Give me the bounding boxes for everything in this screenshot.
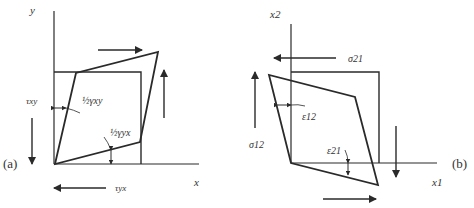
shear-strain-diagram: y x (a) τxy τyx ½γxy ½γyx x2 x1 (b) σ21 …	[0, 0, 474, 208]
axis-y-label: y	[29, 4, 35, 16]
panel-a	[32, 11, 199, 188]
deformed-parallelogram	[269, 75, 378, 185]
axis-x1-label: x1	[431, 176, 442, 188]
epsilon-12-leader	[291, 105, 305, 106]
panel-a-labels: y x (a) τxy τyx ½γxy ½γyx	[3, 4, 199, 193]
gamma-yx-leader	[104, 137, 111, 150]
undeformed-square	[54, 72, 141, 164]
sigma-21-label: σ21	[348, 53, 363, 64]
epsilon-21-leader	[345, 150, 348, 163]
tau-xy-label: τxy	[26, 96, 37, 106]
epsilon-12-label: ε12	[302, 111, 316, 122]
deformed-parallelogram	[55, 52, 158, 164]
panel-b-labels: x2 x1 (b) σ21 σ12 ε12 ε21	[249, 8, 467, 188]
panel-b-tag: (b)	[452, 156, 467, 171]
half-gamma-yx-label: ½γyx	[110, 127, 131, 138]
tau-yx-label: τyx	[115, 183, 126, 193]
epsilon-21-label: ε21	[327, 145, 341, 156]
half-gamma-xy-label: ½γxy	[82, 95, 103, 106]
panel-a-tag: (a)	[3, 156, 17, 171]
axis-x-label: x	[193, 176, 199, 188]
panel-b	[255, 24, 437, 199]
sigma-12-label: σ12	[249, 139, 264, 150]
axis-x2-label: x2	[269, 8, 281, 20]
